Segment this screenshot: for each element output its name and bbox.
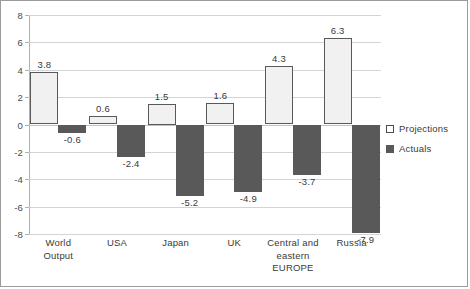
- value-label-actuals: -0.6: [52, 134, 92, 145]
- y-tick-label: -6: [1, 201, 23, 212]
- legend-swatch-projections-icon: [386, 125, 394, 133]
- chart-legend: Projections Actuals: [386, 123, 466, 163]
- y-tick-label: 8: [1, 10, 23, 21]
- y-tick-label: -4: [1, 174, 23, 185]
- category-label-line: Output: [43, 250, 73, 261]
- x-axis-categories: WorldOutputUSAJapanUKCentral andeasternE…: [29, 237, 381, 287]
- value-label-actuals: -5.2: [170, 197, 210, 208]
- category-label-line: eastern: [276, 250, 309, 261]
- category-label[interactable]: Russia: [316, 237, 387, 250]
- bar-actuals[interactable]: [58, 125, 86, 133]
- legend-label-projections: Projections: [399, 123, 448, 134]
- value-label-projections: 0.6: [83, 103, 123, 114]
- y-tick-label: -2: [1, 146, 23, 157]
- bar-actuals[interactable]: [234, 125, 262, 192]
- y-tick-mark: [25, 234, 29, 235]
- bar-actuals[interactable]: [352, 125, 380, 233]
- value-label-actuals: -2.4: [111, 158, 151, 169]
- category-label-line: Japan: [162, 237, 189, 248]
- bar-projections[interactable]: [206, 103, 234, 125]
- bar-actuals[interactable]: [176, 125, 204, 196]
- category-label-line: Central and: [267, 237, 318, 248]
- value-label-actuals: -4.9: [228, 193, 268, 204]
- value-label-projections: 6.3: [318, 25, 358, 36]
- chart-container: 86420-2-4-6-8 3.8-0.60.6-2.41.5-5.21.6-4…: [0, 0, 468, 287]
- bar-projections[interactable]: [324, 38, 352, 124]
- bar-projections[interactable]: [89, 116, 117, 124]
- bar-projections[interactable]: [30, 72, 58, 124]
- plot-area: 3.8-0.60.6-2.41.5-5.21.6-4.94.3-3.76.3-7…: [29, 15, 381, 234]
- value-label-projections: 1.6: [200, 90, 240, 101]
- bar-projections[interactable]: [148, 104, 176, 125]
- legend-item-actuals[interactable]: Actuals: [386, 143, 466, 154]
- bar-actuals[interactable]: [293, 125, 321, 176]
- category-label-line: Russia: [337, 237, 367, 248]
- category-label-line: World: [46, 237, 72, 248]
- y-tick-label: 4: [1, 64, 23, 75]
- value-label-projections: 1.5: [142, 91, 182, 102]
- category-label-line: USA: [107, 237, 127, 248]
- value-label-actuals: -3.7: [287, 176, 327, 187]
- legend-item-projections[interactable]: Projections: [386, 123, 466, 134]
- y-tick-label: -8: [1, 229, 23, 240]
- bar-actuals[interactable]: [117, 125, 145, 158]
- category-label-line: EUROPE: [272, 262, 313, 273]
- legend-swatch-actuals-icon: [386, 145, 394, 153]
- gridline-neg8: [29, 234, 381, 235]
- value-label-projections: 3.8: [24, 59, 64, 70]
- category-label-line: UK: [228, 237, 242, 248]
- bar-projections[interactable]: [265, 66, 293, 125]
- legend-label-actuals: Actuals: [399, 143, 432, 154]
- y-tick-label: 0: [1, 119, 23, 130]
- value-label-projections: 4.3: [259, 53, 299, 64]
- y-tick-label: 2: [1, 92, 23, 103]
- y-tick-label: 6: [1, 37, 23, 48]
